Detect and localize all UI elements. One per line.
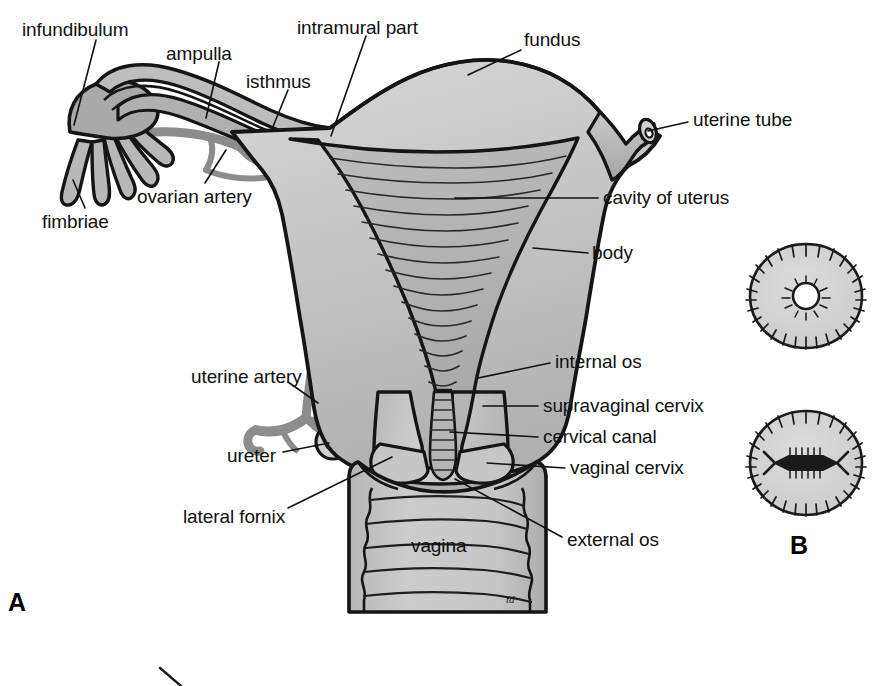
nulliparous-external-os bbox=[793, 283, 819, 309]
label-ampulla: ampulla bbox=[166, 44, 232, 63]
label-infundibulum: infundibulum bbox=[22, 20, 129, 39]
ovarian-artery-branch-3 bbox=[206, 170, 262, 179]
label-cervical-canal: cervical canal bbox=[543, 427, 657, 446]
stray-mark bbox=[160, 668, 181, 686]
parous-os-view bbox=[746, 411, 866, 516]
label-uterine-tube: uterine tube bbox=[693, 110, 792, 129]
label-supravaginal-cervix: supravaginal cervix bbox=[543, 396, 704, 415]
panel-b-illustration bbox=[746, 244, 866, 516]
label-fundus: fundus bbox=[524, 30, 580, 49]
ovarian-artery-branch-1 bbox=[206, 137, 212, 170]
label-body: body bbox=[592, 243, 633, 262]
panel-letter-a: A bbox=[8, 590, 26, 615]
cervical-canal bbox=[430, 392, 456, 480]
label-lateral-fornix: lateral fornix bbox=[183, 507, 285, 526]
nulliparous-os-view bbox=[746, 244, 866, 349]
label-cavity-of-uterus: cavity of uterus bbox=[603, 188, 729, 207]
label-intramural-part: intramural part bbox=[297, 18, 418, 37]
label-uterine-artery: uterine artery bbox=[191, 367, 302, 386]
parous-external-os bbox=[775, 456, 837, 470]
label-internal-os: internal os bbox=[555, 352, 642, 371]
uterus-anatomy-illustration: td bbox=[0, 0, 890, 686]
label-vagina: vagina bbox=[411, 536, 466, 555]
artist-mark: td bbox=[506, 593, 515, 605]
label-external-os: external os bbox=[567, 530, 659, 549]
label-vaginal-cervix: vaginal cervix bbox=[570, 458, 684, 477]
label-isthmus: isthmus bbox=[246, 72, 311, 91]
panel-letter-b: B bbox=[790, 533, 808, 558]
label-ureter: ureter bbox=[227, 446, 276, 465]
label-fimbriae: fimbriae bbox=[42, 212, 109, 231]
figure-page: td bbox=[0, 0, 890, 686]
label-ovarian-artery: ovarian artery bbox=[137, 187, 252, 206]
